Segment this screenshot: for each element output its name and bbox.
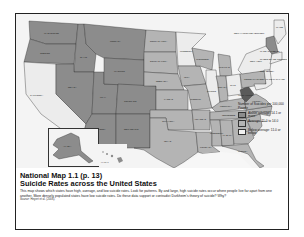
- label-ri-ct: RHODE ISLAND CONNECTICUT: [260, 58, 287, 60]
- label-vermont-nh: NEW HAMPSHIRE VERMONT: [234, 32, 265, 34]
- label-south-dakota: SOUTH DAKOTA: [150, 60, 168, 62]
- caption-source: Source: Heyert et al. (2006).: [20, 198, 284, 202]
- label-illinois: ILLINOIS: [207, 90, 217, 92]
- legend-label-average: Average: 11.0 to 14.0: [248, 120, 278, 124]
- legend-label-below: Below average: 11.0 or below: [248, 129, 286, 136]
- label-kansas: KANSAS: [164, 98, 173, 100]
- label-indiana: INDIANA: [218, 86, 227, 88]
- label-tennessee: TENNESSEE: [222, 114, 236, 116]
- legend-swatch-average: [238, 120, 246, 127]
- label-maine: MAINE: [276, 26, 283, 28]
- label-de-md: DELAWARE MARYLAND: [260, 78, 285, 80]
- map-caption: National Map 1.1 (p. 13) Suicide Rates a…: [20, 172, 284, 202]
- label-oklahoma: OKLAHOMA: [162, 120, 175, 122]
- state-arkansas: [192, 110, 210, 130]
- label-north-dakota: NORTH DAKOTA: [150, 40, 168, 42]
- label-hawaii: HAWAII: [101, 161, 109, 163]
- label-ohio: OHIO: [230, 84, 236, 86]
- caption-body: This map shows which states have high, a…: [20, 189, 284, 198]
- label-louisiana: LOUISIANA: [200, 146, 212, 148]
- label-california: CALIFORNIA: [30, 94, 44, 96]
- label-idaho: IDAHO: [80, 56, 87, 58]
- label-alabama: ALABAMA: [222, 134, 233, 136]
- label-montana: MONTANA: [110, 40, 121, 42]
- legend-title: Number of Suicides per 100,000 People: [238, 103, 286, 110]
- state-wyoming: [104, 58, 144, 86]
- source-text: Heyert et al. (2006).: [30, 197, 55, 201]
- label-kentucky: KENTUCKY: [220, 105, 232, 107]
- label-new-york: NEW YORK: [250, 60, 262, 62]
- label-utah: UTAH: [100, 96, 106, 98]
- legend-item-above: Above average: 14.1 or more: [238, 112, 286, 119]
- label-nebraska: NEBRASKA: [156, 80, 168, 82]
- state-south-dakota: [144, 52, 178, 74]
- figure-frame: WASHINGTON OREGON CALIFORNIA IDAHO NEVAD…: [15, 13, 289, 230]
- label-west-virginia: WEST VIRGINIA: [238, 94, 255, 96]
- label-alaska: ALASKA: [63, 145, 72, 147]
- label-texas: TEXAS: [164, 140, 172, 142]
- source-label: Source:: [20, 197, 30, 201]
- state-colorado: [116, 84, 156, 114]
- label-new-jersey: NEW JERSEY: [260, 70, 275, 72]
- label-massachusetts: MASSACHUSETTS: [260, 50, 280, 52]
- legend-swatch-above: [238, 112, 246, 119]
- label-wisconsin: WISCONSIN: [196, 58, 209, 60]
- state-kansas: [156, 90, 188, 110]
- map-legend: Number of Suicides per 100,000 People Ab…: [238, 103, 286, 137]
- label-michigan: MICHIGAN: [219, 66, 230, 68]
- label-oregon: OREGON: [40, 52, 50, 54]
- label-wyoming: WYOMING: [114, 70, 125, 72]
- label-missouri: MISSOURI: [190, 98, 201, 100]
- label-arkansas: ARKANSAS: [194, 118, 206, 120]
- us-choropleth-map: WASHINGTON OREGON CALIFORNIA IDAHO NEVAD…: [16, 14, 287, 168]
- label-nevada: NEVADA: [68, 86, 77, 88]
- legend-item-average: Average: 11.0 to 14.0: [238, 120, 286, 127]
- label-colorado: COLORADO: [124, 100, 137, 102]
- caption-title: Suicide Rates across the United States: [20, 180, 284, 188]
- hawaii-inset: HAWAII: [97, 144, 127, 166]
- legend-label-above: Above average: 14.1 or more: [248, 112, 286, 119]
- legend-swatch-below: [238, 129, 246, 136]
- label-washington: WASHINGTON: [44, 32, 59, 34]
- label-minnesota: MINNESOTA: [180, 50, 193, 52]
- legend-item-below: Below average: 11.0 or below: [238, 129, 286, 136]
- label-florida: FLORIDA: [238, 150, 248, 152]
- state-michigan: [218, 54, 232, 76]
- label-pennsylvania: PENNSYLVANIA: [244, 78, 261, 80]
- label-new-mexico: NEW MEXICO: [124, 128, 139, 130]
- label-iowa: IOWA: [184, 76, 190, 78]
- alaska-inset: ALASKA: [48, 128, 99, 167]
